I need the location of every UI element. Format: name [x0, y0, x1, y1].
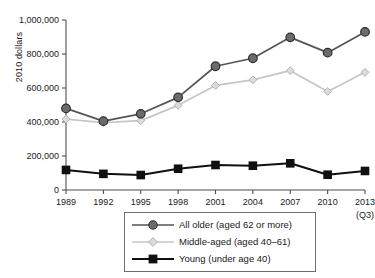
- x-axis-tick-2013: 2013: [355, 197, 375, 207]
- legend-marker-diamond-icon: [130, 235, 176, 249]
- x-axis-tick-1998: 1998: [168, 197, 188, 207]
- legend-label-all-older: All older (aged 62 or more): [176, 219, 292, 230]
- series-1: [62, 67, 369, 127]
- x-axis-tick-2007: 2007: [280, 197, 300, 207]
- chart-legend: All older (aged 62 or more) Middle-aged …: [124, 212, 316, 272]
- x-axis-tick-1989: 1989: [56, 197, 76, 207]
- legend-marker-circle-icon: [130, 218, 176, 232]
- legend-item-2[interactable]: Young (under age 40): [130, 250, 310, 267]
- x-axis-tick-1992: 1992: [93, 197, 113, 207]
- legend-item-1[interactable]: Middle-aged (aged 40–61): [130, 233, 310, 250]
- x-axis-tick-2004: 2004: [243, 197, 263, 207]
- legend-label-middle-aged: Middle-aged (aged 40–61): [176, 236, 290, 247]
- legend-item-0[interactable]: All older (aged 62 or more): [130, 216, 310, 233]
- series-2: [62, 159, 370, 179]
- x-axis-quarter-note: (Q3): [356, 210, 374, 220]
- legend-marker-square-icon: [130, 252, 176, 266]
- x-axis-tick-2010: 2010: [318, 197, 338, 207]
- legend-label-young: Young (under age 40): [176, 253, 271, 264]
- x-axis-tick-1995: 1995: [131, 197, 151, 207]
- series-0: [62, 28, 370, 126]
- x-axis-tick-2001: 2001: [205, 197, 225, 207]
